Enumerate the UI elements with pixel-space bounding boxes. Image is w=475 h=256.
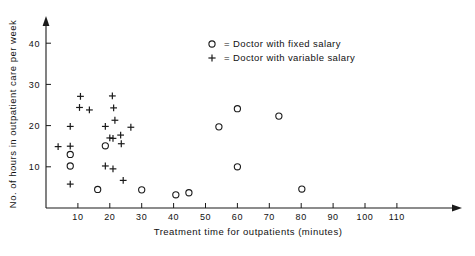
legend-plus-icon bbox=[208, 54, 215, 61]
point-plus bbox=[86, 107, 93, 114]
x-tick-label: 100 bbox=[357, 212, 374, 222]
y-tick-label: 30 bbox=[29, 80, 40, 90]
point-circle bbox=[276, 113, 282, 119]
x-tick-label: 10 bbox=[72, 212, 83, 222]
x-tick-label: 70 bbox=[264, 212, 275, 222]
point-circle bbox=[139, 187, 145, 193]
point-circle bbox=[67, 151, 73, 157]
point-circle bbox=[173, 192, 179, 198]
point-circle bbox=[216, 124, 222, 130]
y-tick-label: 10 bbox=[29, 162, 40, 172]
point-circle bbox=[95, 186, 101, 192]
series-fixed-salary bbox=[67, 106, 305, 198]
point-plus bbox=[120, 177, 127, 184]
x-tick-label: 80 bbox=[296, 212, 307, 222]
point-plus bbox=[118, 140, 125, 147]
point-circle bbox=[186, 190, 192, 196]
y-tick-label: 40 bbox=[29, 39, 40, 49]
x-tick-label: 20 bbox=[104, 212, 115, 222]
point-plus bbox=[110, 135, 117, 142]
point-plus bbox=[110, 165, 117, 172]
point-circle bbox=[102, 143, 108, 149]
point-plus bbox=[67, 123, 74, 130]
point-plus bbox=[55, 143, 62, 150]
chart-page: 10203040506070809010011010203040 = Docto… bbox=[0, 0, 475, 256]
y-axis-title: No. of hours in outpatient care per week bbox=[7, 20, 18, 208]
point-circle bbox=[234, 106, 240, 112]
point-plus bbox=[127, 124, 134, 131]
x-axis-arrow-icon bbox=[452, 205, 462, 212]
legend-label-fixed: = Doctor with fixed salary bbox=[224, 38, 341, 49]
point-plus bbox=[117, 132, 124, 139]
scatter-plot: 10203040506070809010011010203040 = Docto… bbox=[0, 0, 475, 256]
point-plus bbox=[102, 163, 109, 170]
data-points bbox=[55, 93, 305, 198]
point-plus bbox=[67, 143, 74, 150]
axis-tick-labels: 10203040506070809010011010203040 bbox=[29, 39, 405, 223]
legend-label-variable: = Doctor with variable salary bbox=[224, 52, 355, 63]
point-plus bbox=[110, 104, 117, 111]
x-tick-label: 110 bbox=[389, 212, 405, 222]
point-plus bbox=[109, 93, 116, 100]
series-variable-salary bbox=[55, 93, 135, 188]
x-tick-label: 60 bbox=[232, 212, 243, 222]
legend-circle-icon bbox=[209, 41, 215, 47]
x-tick-label: 50 bbox=[200, 212, 211, 222]
point-circle bbox=[299, 186, 305, 192]
x-tick-label: 90 bbox=[327, 212, 338, 222]
point-plus bbox=[77, 93, 84, 100]
point-circle bbox=[234, 164, 240, 170]
y-tick-label: 20 bbox=[29, 121, 40, 131]
point-plus bbox=[76, 104, 83, 111]
x-tick-label: 30 bbox=[136, 212, 147, 222]
point-plus bbox=[67, 181, 74, 188]
point-plus bbox=[112, 117, 119, 124]
legend: = Doctor with fixed salary= Doctor with … bbox=[208, 38, 355, 63]
point-plus bbox=[102, 123, 109, 130]
x-axis-title: Treatment time for outpatients (minutes) bbox=[154, 226, 343, 237]
y-axis-arrow-icon bbox=[43, 16, 50, 26]
x-tick-label: 40 bbox=[168, 212, 179, 222]
point-circle bbox=[67, 163, 73, 169]
